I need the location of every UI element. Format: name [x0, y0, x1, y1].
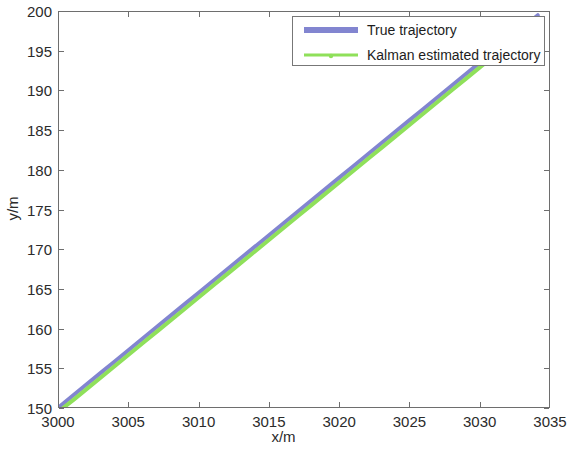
x-axis-title: x/m: [0, 428, 567, 445]
y-tickmark-left: [59, 249, 64, 250]
y-tickmark-left: [59, 210, 64, 211]
y-tickmark-left: [59, 90, 64, 91]
y-tickmark-left: [59, 289, 64, 290]
y-tickmark-left: [59, 51, 64, 52]
y-tickmark-left: [59, 11, 64, 12]
y-tick-label: 165: [2, 280, 52, 297]
legend-entry-true-trajectory: True trajectory: [293, 18, 544, 42]
y-tick-label: 190: [2, 82, 52, 99]
x-tickmark-top: [199, 12, 200, 17]
y-tickmark-left: [59, 408, 64, 409]
figure-canvas: 150155160165170175180185190195200 300030…: [0, 0, 567, 452]
x-tickmark-bottom: [269, 402, 270, 407]
y-tickmark-right: [544, 289, 549, 290]
series-line: [59, 15, 538, 407]
y-tick-label: 200: [2, 3, 52, 20]
y-tick-label: 195: [2, 42, 52, 59]
y-tickmark-right: [544, 130, 549, 131]
y-tick-label: 155: [2, 360, 52, 377]
y-tick-label: 180: [2, 161, 52, 178]
x-tickmark-bottom: [409, 402, 410, 407]
legend-box: True trajectory Kalman estimated traject…: [292, 16, 545, 66]
y-tickmark-right: [544, 329, 549, 330]
legend-label-kalman-trajectory: Kalman estimated trajectory: [367, 47, 541, 63]
y-tickmark-left: [59, 170, 64, 171]
x-tickmark-top: [128, 12, 129, 17]
x-tickmark-top: [269, 12, 270, 17]
y-tickmark-right: [544, 11, 549, 12]
y-tickmark-right: [544, 249, 549, 250]
y-tickmark-right: [544, 210, 549, 211]
x-tickmark-bottom: [339, 402, 340, 407]
y-tickmark-right: [544, 170, 549, 171]
y-tick-label: 185: [2, 122, 52, 139]
y-tickmark-left: [59, 368, 64, 369]
y-axis-title: y/m: [4, 179, 21, 239]
y-tickmark-right: [544, 368, 549, 369]
y-tickmark-right: [544, 90, 549, 91]
legend-line-sample-kalman-trajectory: [303, 48, 359, 62]
x-tickmark-bottom: [199, 402, 200, 407]
y-tickmark-left: [59, 329, 64, 330]
y-tickmark-left: [59, 130, 64, 131]
legend-label-true-trajectory: True trajectory: [367, 22, 457, 38]
legend-entry-kalman-trajectory: Kalman estimated trajectory: [293, 43, 544, 67]
data-plot-svg: [59, 12, 549, 407]
plot-area: [58, 11, 550, 408]
y-tick-label: 160: [2, 320, 52, 337]
legend-line-sample-true-trajectory: [303, 23, 359, 37]
y-tick-label: 170: [2, 241, 52, 258]
y-tickmark-right: [544, 408, 549, 409]
x-tickmark-bottom: [480, 402, 481, 407]
x-tickmark-bottom: [128, 402, 129, 407]
